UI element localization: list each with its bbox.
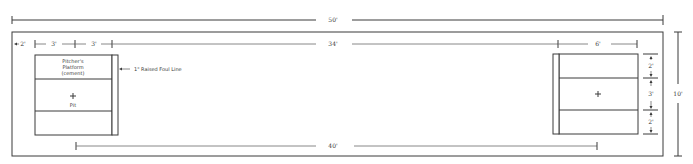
dimension-inner-span: 34' [112, 40, 558, 48]
right-middle-label: 3' [648, 90, 654, 97]
dimension-right-box-width: 6' [558, 40, 637, 48]
platform-label-line3: (cement) [62, 70, 85, 76]
left-margin-label: 2' [20, 40, 26, 47]
inner-span-label: 34' [328, 40, 338, 47]
horseshoe-court-diagram: 50' 2' 3' 3' 34' 6' [0, 0, 693, 164]
dimension-right-vertical: 2' 3' 2' [643, 54, 658, 134]
pit-depth-label: 3' [91, 40, 97, 47]
foul-line-callout: 1" Raised Foul Line [119, 66, 182, 72]
dimension-width: 10' [673, 32, 683, 156]
left-foul-line-strip [112, 55, 118, 135]
width-label: 10' [673, 90, 683, 97]
pit-label: Pit [70, 102, 76, 108]
foul-line-label: 1" Raised Foul Line [134, 66, 182, 72]
right-bottom-label: 2' [648, 118, 654, 125]
left-pitching-box: Pitcher's Platform (cement) Pit [35, 55, 118, 135]
dimension-row-left: 2' 3' 3' [14, 40, 112, 48]
dimension-pit-to-pit: 40' [76, 142, 597, 150]
pit-to-pit-label: 40' [328, 142, 338, 149]
right-foul-line-strip [553, 54, 559, 134]
right-box-width-label: 6' [595, 40, 601, 47]
dimension-overall-length: 50' [12, 15, 663, 25]
overall-length-label: 50' [328, 16, 338, 23]
right-pitching-box [553, 54, 638, 134]
right-top-label: 2' [648, 62, 654, 69]
platform-depth-label: 3' [51, 40, 57, 47]
